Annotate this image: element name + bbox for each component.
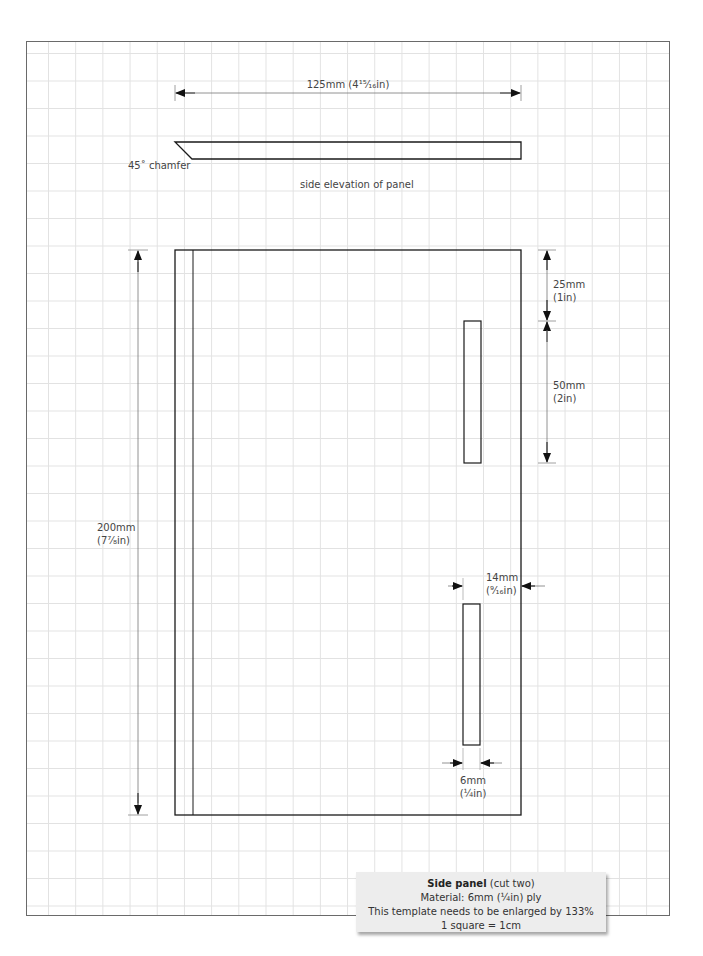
caption-scale: 1 square = 1cm xyxy=(356,919,606,933)
panel-outline xyxy=(175,250,521,815)
slot-offset-in-label: (⁹⁄₁₆in) xyxy=(486,585,517,597)
slot-width-in-label: (¼in) xyxy=(451,788,495,800)
upper-slot xyxy=(464,321,481,463)
template-caption: Side panel (cut two) Material: 6mm (¼in)… xyxy=(356,872,606,932)
lower-slot xyxy=(463,604,480,745)
chamfer-label: 45˚ chamfer xyxy=(128,160,190,172)
slot-width-mm-label: 6mm xyxy=(451,775,495,787)
slot-length-in-label: (2in) xyxy=(553,393,576,405)
caption-material: Material: 6mm (¼in) ply xyxy=(356,891,606,905)
caption-enlarge: This template needs to be enlarged by 13… xyxy=(356,905,606,919)
top-offset-in-label: (1in) xyxy=(553,292,576,304)
height-mm-label: 200mm xyxy=(97,522,136,534)
top-offset-mm-label: 25mm xyxy=(553,279,585,291)
slot-length-mm-label: 50mm xyxy=(553,380,585,392)
slot-offset-mm-label: 14mm xyxy=(486,572,518,584)
overall-width-label: 125mm (4¹⁵⁄₁₆in) xyxy=(260,79,436,91)
slot-width-dimension xyxy=(442,748,502,770)
side-elevation-outline xyxy=(175,142,521,159)
panel-drawing xyxy=(0,0,703,956)
caption-title: Side panel (cut two) xyxy=(356,877,606,891)
height-in-label: (7⁷⁄₈in) xyxy=(97,535,130,547)
side-elevation-caption: side elevation of panel xyxy=(300,179,414,191)
